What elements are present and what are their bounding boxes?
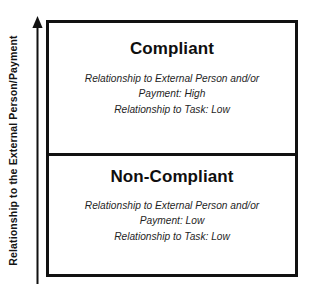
quadrant-compliant-line-3: Relationship to Task: Low <box>85 102 259 118</box>
quadrant-compliant-title: Compliant <box>130 40 214 59</box>
quadrant-compliant-line-1: Relationship to External Person and/or <box>85 71 259 87</box>
quadrant-non-compliant-line-3: Relationship to Task: Low <box>85 229 259 245</box>
quadrant-non-compliant: Non-Compliant Relationship to External P… <box>49 156 295 274</box>
quadrant-non-compliant-line-1: Relationship to External Person and/or <box>85 198 259 214</box>
quadrant-non-compliant-body: Relationship to External Person and/or P… <box>79 198 265 245</box>
matrix-box: Compliant Relationship to External Perso… <box>46 20 298 277</box>
quadrant-compliant-line-2: Payment: High <box>85 86 259 102</box>
quadrant-compliant-body: Relationship to External Person and/or P… <box>79 71 265 118</box>
quadrant-compliant: Compliant Relationship to External Perso… <box>49 23 295 156</box>
quadrant-non-compliant-title: Non-Compliant <box>110 168 233 187</box>
up-arrow-icon <box>30 14 46 286</box>
y-axis-label: Relationship to the External Person/Paym… <box>0 0 26 301</box>
compliance-matrix-figure: Relationship to the External Person/Paym… <box>0 0 317 301</box>
quadrant-non-compliant-line-2: Payment: Low <box>85 213 259 229</box>
